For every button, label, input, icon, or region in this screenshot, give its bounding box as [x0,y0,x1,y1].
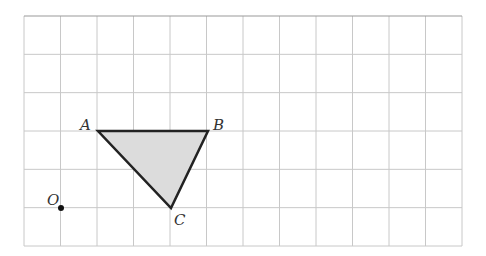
label-c: C [174,211,186,229]
label-a: A [78,116,91,134]
label-b: B [212,116,224,134]
grid-diagram: A B C O [0,0,486,256]
label-o: O [47,191,59,209]
